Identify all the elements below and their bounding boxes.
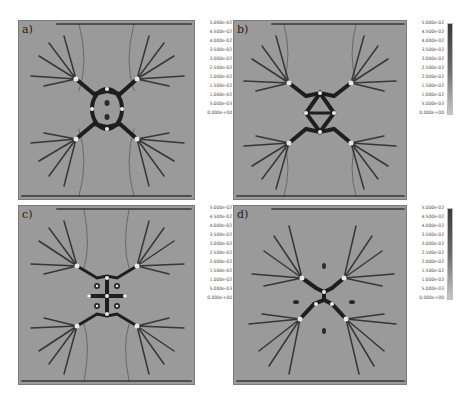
colorbar-label: 5.000e-02 (408, 20, 444, 25)
colorbar-label: 1.000e-02 (196, 277, 232, 282)
colorbar-label: 0.000e+00 (408, 110, 444, 115)
colorbar-label: 5.000e-03 (408, 286, 444, 291)
colorbar-gradient-b (447, 23, 453, 115)
damage-contour-plot-b: b) (233, 20, 407, 200)
colorbar-label: 1.500e-02 (408, 268, 444, 273)
colorbar-label: 2.000e-02 (196, 259, 232, 264)
colorbar-label: 2.500e-02 (196, 65, 232, 70)
colorbar-label: 2.000e-02 (408, 259, 444, 264)
colorbar-d: 5.000e-02 4.500e-02 4.000e-02 3.500e-02 … (408, 205, 458, 310)
panel-label-c: c) (22, 208, 32, 221)
colorbar-label: 5.000e-03 (196, 101, 232, 106)
colorbar-label: 4.000e-02 (408, 223, 444, 228)
colorbar-label: 4.500e-02 (196, 214, 232, 219)
colorbar-label: 3.500e-02 (196, 47, 232, 52)
colorbar-label: 3.000e-02 (196, 56, 232, 61)
damage-contour-plot-c: c) (18, 205, 195, 385)
colorbar-label: 4.000e-02 (196, 38, 232, 43)
colorbar-label: 1.000e-02 (408, 92, 444, 97)
colorbar-label: 3.000e-02 (408, 56, 444, 61)
colorbar-label: 2.500e-02 (408, 250, 444, 255)
damage-contour-plot-a: a) (18, 20, 195, 200)
panel-label-a: a) (22, 23, 33, 36)
colorbar-label: 3.500e-02 (408, 47, 444, 52)
colorbar-label: 5.000e-02 (408, 205, 444, 210)
colorbar-label: 1.000e-02 (196, 92, 232, 97)
colorbar-label: 4.000e-02 (196, 223, 232, 228)
colorbar-label: 1.500e-02 (408, 83, 444, 88)
colorbar-gradient-d (447, 208, 453, 300)
crack-pattern-c (19, 206, 194, 384)
colorbar-label: 5.000e-02 (196, 20, 232, 25)
colorbar-label: 2.500e-02 (196, 250, 232, 255)
colorbar-label: 2.500e-02 (408, 65, 444, 70)
colorbar-b: 5.000e-02 4.500e-02 4.000e-02 3.500e-02 … (408, 20, 458, 125)
panel-label-d: d) (237, 208, 248, 221)
damage-contour-plot-d: d) (233, 205, 407, 385)
crack-pattern-d (234, 206, 406, 384)
colorbar-label: 5.000e-03 (408, 101, 444, 106)
crack-pattern-a (19, 21, 194, 199)
colorbar-label: 4.000e-02 (408, 38, 444, 43)
colorbar-label: 3.500e-02 (196, 232, 232, 237)
colorbar-label: 2.000e-02 (408, 74, 444, 79)
colorbar-label: 1.500e-02 (196, 83, 232, 88)
colorbar-label: 1.500e-02 (196, 268, 232, 273)
colorbar-label: 3.000e-02 (196, 241, 232, 246)
colorbar-label: 2.000e-02 (196, 74, 232, 79)
crack-pattern-b (234, 21, 406, 199)
colorbar-label: 5.000e-02 (196, 205, 232, 210)
colorbar-label: 4.500e-02 (408, 29, 444, 34)
colorbar-label: 0.000e+00 (408, 295, 444, 300)
panel-label-b: b) (237, 23, 248, 36)
colorbar-label: 1.000e-02 (408, 277, 444, 282)
colorbar-label: 3.000e-02 (408, 241, 444, 246)
colorbar-label: 4.500e-02 (408, 214, 444, 219)
colorbar-label: 0.000e+00 (196, 295, 232, 300)
colorbar-label: 0.000e+00 (196, 110, 232, 115)
colorbar-label: 4.500e-02 (196, 29, 232, 34)
colorbar-label: 3.500e-02 (408, 232, 444, 237)
colorbar-label: 5.000e-03 (196, 286, 232, 291)
